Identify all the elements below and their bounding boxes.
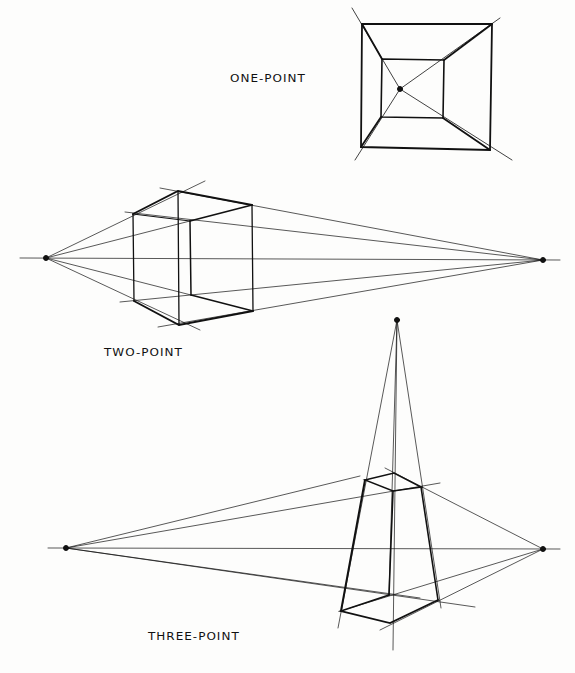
three-point-diagram	[48, 318, 560, 651]
perspective-diagram: ONE-POINT TWO-POINT THREE-POINT	[0, 0, 575, 673]
one-point-diagram	[352, 8, 512, 160]
perspective-drawings	[0, 0, 575, 673]
one-point-label: ONE-POINT	[230, 73, 306, 85]
two-point-label: TWO-POINT	[104, 347, 183, 359]
two-point-diagram	[20, 181, 560, 330]
three-point-label: THREE-POINT	[148, 631, 240, 643]
